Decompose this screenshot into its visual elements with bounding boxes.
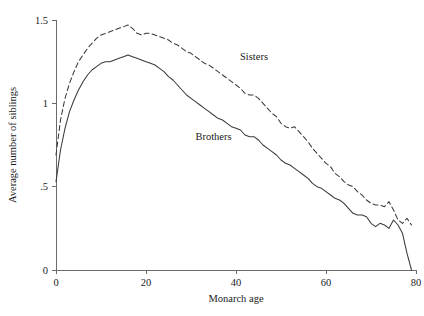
axes — [56, 20, 416, 270]
x-tick-label: 40 — [231, 277, 242, 288]
x-axis-title: Monarch age — [208, 293, 263, 304]
y-axis-ticks: 0.511.5 — [35, 15, 56, 276]
annotation-brothers: Brothers — [195, 131, 231, 142]
y-tick-label: .5 — [40, 181, 48, 192]
x-tick-label: 60 — [321, 277, 332, 288]
x-tick-label: 80 — [411, 277, 422, 288]
x-axis-ticks: 020406080 — [53, 270, 421, 288]
annotation-sisters: Sisters — [240, 51, 268, 62]
series-annotations: SistersBrothers — [195, 51, 268, 142]
series-lines — [56, 25, 412, 270]
y-tick-label: 0 — [43, 265, 48, 276]
series-line-sisters — [56, 25, 412, 225]
y-tick-label: 1.5 — [35, 15, 48, 26]
series-line-brothers — [56, 55, 412, 270]
x-tick-label: 0 — [53, 277, 58, 288]
line-chart: 0.511.5 020406080 SistersBrothers Monarc… — [0, 0, 424, 316]
y-axis-title: Average number of siblings — [7, 87, 18, 203]
y-tick-label: 1 — [43, 98, 48, 109]
x-tick-label: 20 — [141, 277, 152, 288]
chart-figure: 0.511.5 020406080 SistersBrothers Monarc… — [0, 0, 424, 316]
